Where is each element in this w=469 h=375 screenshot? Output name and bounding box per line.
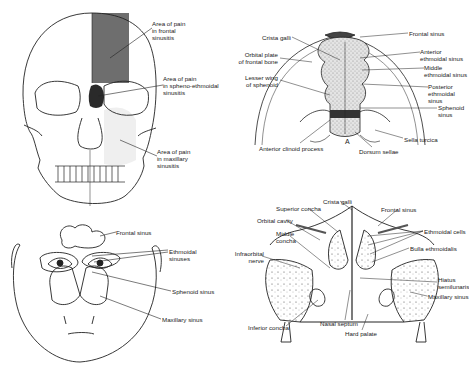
label-frontal-sinusitis-pain: Area of pain in frontal sinusitis bbox=[152, 20, 185, 41]
label-middle-concha: Middle concha bbox=[276, 230, 296, 244]
label-orbital-plate: Orbital plate of frontal bone bbox=[232, 51, 278, 65]
label-spheno-ethmoidal-sinusitis-pain: Area of pain in spheno-ethmoidal sinusit… bbox=[163, 75, 219, 96]
maxillary-pain-area bbox=[104, 108, 136, 166]
skull-illustration bbox=[23, 13, 163, 206]
ethmoid-cells-left bbox=[328, 230, 348, 269]
label-crista-galli: Crista galli bbox=[323, 198, 352, 205]
label-posterior-ethmoidal-sinus: Posterior ethmoidal sinus bbox=[428, 83, 469, 104]
label-hard-palate: Hard palate bbox=[345, 330, 377, 337]
label-maxillary-sinus: Maxillary sinus bbox=[162, 316, 203, 323]
label-sphenoid-sinus: Sphenoid sinus bbox=[438, 104, 464, 118]
label-sphenoid-sinus: Sphenoid sinus bbox=[172, 288, 214, 295]
label-infraorbital-nerve: Infraorbital nerve bbox=[230, 250, 264, 264]
maxillary-left bbox=[266, 259, 313, 322]
frontal-sinusitis-pain-area bbox=[92, 13, 129, 83]
label-inferior-concha: Inferior concha bbox=[248, 324, 289, 331]
label-maxillary-sinusitis-pain: Area of pain in maxillary sinusitis bbox=[157, 148, 190, 169]
label-sella-turcica: Sella turcica bbox=[404, 136, 438, 143]
ethmoid-complex bbox=[318, 37, 369, 136]
spheno-ethmoidal-pain-area bbox=[89, 84, 104, 108]
label-nasal-septum: Nasal septum bbox=[320, 320, 358, 327]
label-ethmoidal-sinuses: Ethmoidal sinuses bbox=[169, 248, 197, 262]
label-middle-ethmoidal-sinus: Middle ethmoidal sinus bbox=[424, 64, 467, 78]
ethmoid-cells-right bbox=[356, 230, 376, 269]
label-marker-a: A bbox=[345, 138, 350, 145]
label-anterior-ethmoidal-sinus: Anterior ethmoidal sinus bbox=[420, 48, 463, 62]
label-superior-concha: Superior concha bbox=[276, 205, 321, 212]
label-crista-galli: Crista galli bbox=[262, 34, 291, 41]
label-bulla-ethmoidalis: Bulla ethmoidalis bbox=[410, 245, 457, 252]
label-frontal-sinus: Frontal sinus bbox=[116, 229, 151, 236]
frontal-sinus-shape bbox=[60, 225, 105, 248]
label-ethmoidal-cells: Ethmoidal cells bbox=[424, 228, 466, 235]
face-illustration bbox=[12, 225, 171, 362]
cranial-floor-illustration bbox=[255, 32, 437, 147]
label-frontal-sinus: Frontal sinus bbox=[409, 30, 444, 37]
label-maxillary-sinus: Maxillary sinus bbox=[428, 293, 469, 300]
label-hiatus-semilunaris: Hiatus semilunaris bbox=[438, 276, 469, 290]
maxillary-right bbox=[391, 259, 438, 322]
label-dorsum-sellae: Dorsum sellae bbox=[359, 148, 399, 155]
label-lesser-wing-sphenoid: Lesser wing of sphenoid bbox=[232, 74, 278, 88]
label-frontal-sinus: Frontal sinus bbox=[381, 206, 416, 213]
label-orbital-cavity: Orbital cavity bbox=[257, 217, 293, 224]
label-anterior-clinoid-process: Anterior clinoid process bbox=[259, 145, 323, 152]
